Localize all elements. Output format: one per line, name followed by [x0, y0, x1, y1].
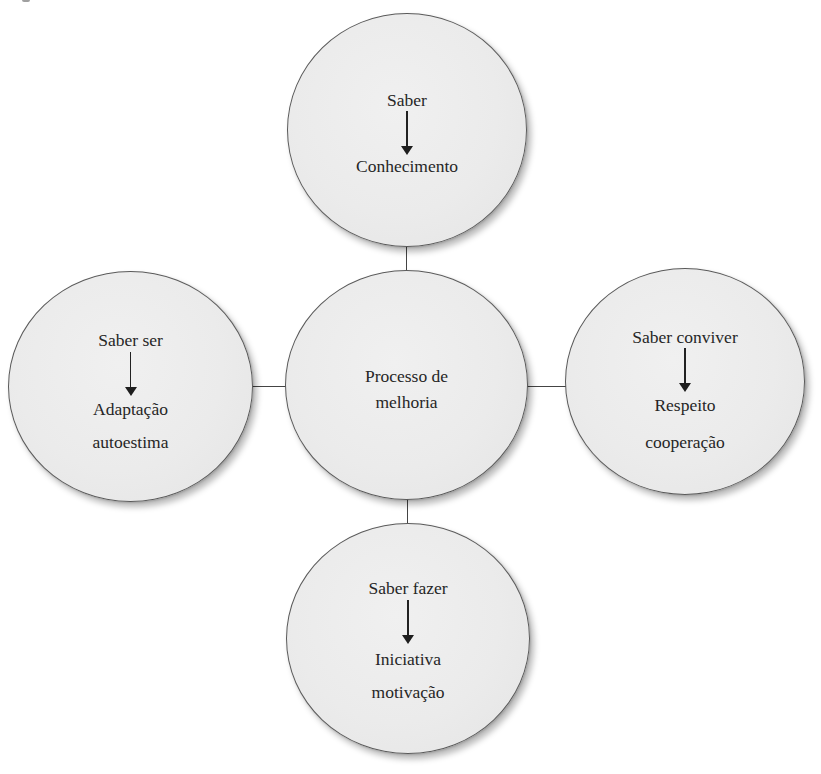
node-processo-de-melhoria: Processo de melhoria — [285, 270, 528, 500]
arrow-down-icon — [402, 600, 414, 644]
center-label-line-2: melhoria — [286, 394, 527, 412]
node-outcome-line-2: motivação — [287, 684, 529, 702]
node-saber-conviver: Saber conviver Respeito cooperação — [565, 268, 805, 495]
node-outcome-line-1: Respeito — [566, 397, 804, 415]
connector-left — [250, 386, 287, 387]
node-outcome-line-2: autoestima — [9, 434, 252, 452]
node-saber-ser: Saber ser Adaptação autoestima — [8, 271, 253, 502]
connector-bottom — [407, 498, 408, 525]
node-outcome-line-1: Adaptação — [9, 401, 252, 419]
node-outcome-line-2: cooperação — [566, 434, 804, 452]
node-heading: Saber fazer — [287, 580, 529, 598]
arrow-down-icon — [679, 348, 691, 392]
node-outcome-line-1: Iniciativa — [287, 651, 529, 669]
arrow-down-icon — [125, 352, 137, 396]
node-heading: Saber conviver — [566, 329, 804, 347]
node-saber: Saber Conhecimento — [287, 13, 527, 247]
center-label-line-1: Processo de — [286, 368, 527, 386]
knowledge-pillars-diagram: Saber Conhecimento Saber ser Adaptação a… — [0, 0, 821, 774]
connector-right — [526, 386, 567, 387]
crop-artifact — [22, 0, 30, 2]
node-heading: Saber ser — [9, 332, 252, 350]
node-outcome: Conhecimento — [288, 158, 526, 176]
arrow-down-icon — [401, 111, 413, 155]
connector-top — [406, 244, 407, 272]
node-saber-fazer: Saber fazer Iniciativa motivação — [286, 523, 530, 754]
node-heading: Saber — [288, 92, 526, 110]
